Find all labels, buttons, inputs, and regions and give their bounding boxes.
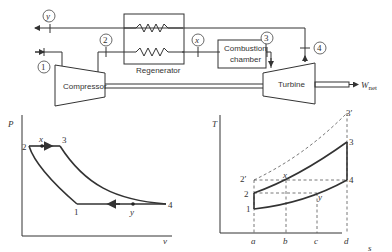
svg-text:2: 2 (22, 142, 27, 152)
cycle-schematic: Regenerator Combustion chamber Compresso… (35, 10, 377, 106)
svg-text:1: 1 (74, 207, 79, 217)
svg-text:y: y (45, 11, 50, 21)
ts-diagram: T s 2′ 2 1 3 3′ 4 x y a b c d (212, 108, 372, 252)
pv-ylabel: P (7, 119, 14, 129)
w-net-label: Wnet (361, 80, 377, 92)
svg-text:4: 4 (317, 43, 322, 53)
svg-text:1: 1 (41, 62, 46, 72)
svg-text:x: x (194, 35, 199, 45)
svg-text:2′: 2′ (240, 174, 247, 184)
pv-xlabel: v (163, 236, 167, 246)
svg-text:y: y (317, 192, 322, 202)
turbine-label: Turbine (278, 80, 305, 89)
combustion-label-1: Combustion (224, 44, 267, 53)
compressor-label: Compressor (63, 82, 107, 91)
svg-text:3: 3 (349, 137, 354, 147)
svg-text:3: 3 (62, 135, 67, 145)
svg-text:x: x (282, 170, 287, 180)
tick-d: d (344, 236, 349, 246)
state-marker-2: 2 (100, 34, 112, 57)
svg-text:4: 4 (349, 175, 354, 185)
compressor-outlet-line (98, 52, 136, 72)
ts-xlabel: s (368, 243, 372, 252)
state-marker-4: 4 (300, 42, 326, 54)
combustion-label-2: chamber (230, 55, 261, 64)
ts-ylabel: T (212, 119, 218, 129)
svg-text:1: 1 (246, 204, 251, 214)
state-marker-x: x (192, 34, 204, 57)
tick-b: b (283, 236, 288, 246)
svg-text:x: x (38, 134, 43, 144)
pv-diagram: P v 2 3 4 1 x y (7, 115, 173, 246)
svg-text:2: 2 (103, 35, 108, 45)
tick-c: c (314, 236, 318, 246)
state-marker-y: y (43, 10, 55, 33)
gas-turbine-regenerator-diagram: Regenerator Combustion chamber Compresso… (0, 0, 392, 252)
svg-text:y: y (129, 207, 134, 217)
regenerator-box (124, 14, 184, 64)
tick-a: a (251, 236, 256, 246)
svg-text:4: 4 (168, 200, 173, 210)
svg-text:3: 3 (264, 33, 269, 43)
svg-text:2: 2 (244, 189, 249, 199)
svg-text:3′: 3′ (346, 108, 353, 118)
regenerator-label: Regenerator (136, 66, 181, 75)
